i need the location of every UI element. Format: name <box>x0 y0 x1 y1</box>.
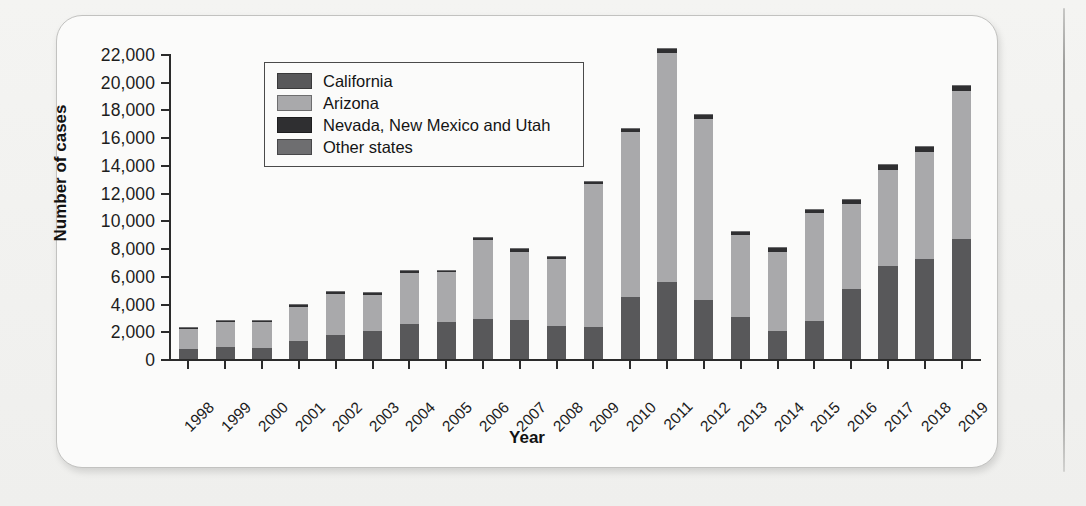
bar-segment[interactable] <box>657 53 676 282</box>
legend-item[interactable]: California <box>277 70 573 92</box>
bar-segment[interactable] <box>584 181 603 182</box>
bar-segment[interactable] <box>694 114 713 115</box>
bar-segment[interactable] <box>878 164 897 165</box>
bar-segment[interactable] <box>252 321 271 322</box>
bar-segment[interactable] <box>621 132 640 297</box>
bar-segment[interactable] <box>510 252 529 321</box>
bar-segment[interactable] <box>878 266 897 359</box>
bar-segment[interactable] <box>657 48 676 49</box>
bar-segment[interactable] <box>878 170 897 266</box>
bar-segment[interactable] <box>289 341 308 359</box>
bar-segment[interactable] <box>621 128 640 129</box>
bar-segment[interactable] <box>842 289 861 359</box>
bar-segment[interactable] <box>216 320 235 321</box>
bar-segment[interactable] <box>547 326 566 359</box>
bar-segment[interactable] <box>179 327 198 328</box>
bar-segment[interactable] <box>805 213 824 320</box>
bar-stack[interactable] <box>768 247 787 359</box>
bar-segment[interactable] <box>768 247 787 248</box>
bar-segment[interactable] <box>621 129 640 132</box>
bar-stack[interactable] <box>657 48 676 359</box>
bar-segment[interactable] <box>363 331 382 359</box>
bar-segment[interactable] <box>694 119 713 300</box>
bar-segment[interactable] <box>547 256 566 259</box>
bar-segment[interactable] <box>326 291 345 292</box>
bar-segment[interactable] <box>289 304 308 305</box>
bar-segment[interactable] <box>842 199 861 200</box>
bar-stack[interactable] <box>805 209 824 359</box>
bar-segment[interactable] <box>952 239 971 359</box>
bar-stack[interactable] <box>731 231 750 359</box>
bar-segment[interactable] <box>768 248 787 251</box>
bar-segment[interactable] <box>289 305 308 307</box>
bar-segment[interactable] <box>400 270 419 271</box>
bar-segment[interactable] <box>437 270 456 272</box>
bar-segment[interactable] <box>437 322 456 359</box>
bar-segment[interactable] <box>621 297 640 359</box>
bar-segment[interactable] <box>842 200 861 204</box>
bar-stack[interactable] <box>437 270 456 359</box>
bar-segment[interactable] <box>510 248 529 249</box>
bar-stack[interactable] <box>547 256 566 359</box>
bar-segment[interactable] <box>584 182 603 184</box>
bar-segment[interactable] <box>326 292 345 294</box>
bar-stack[interactable] <box>179 327 198 359</box>
bar-stack[interactable] <box>400 270 419 359</box>
bar-segment[interactable] <box>915 147 934 152</box>
bar-segment[interactable] <box>473 238 492 241</box>
bar-stack[interactable] <box>878 164 897 359</box>
bar-segment[interactable] <box>584 327 603 359</box>
bar-segment[interactable] <box>731 231 750 234</box>
bar-segment[interactable] <box>326 294 345 336</box>
bar-stack[interactable] <box>473 237 492 359</box>
bar-stack[interactable] <box>289 304 308 359</box>
bar-segment[interactable] <box>731 231 750 232</box>
bar-segment[interactable] <box>731 235 750 317</box>
bar-segment[interactable] <box>437 272 456 321</box>
bar-segment[interactable] <box>805 209 824 213</box>
bar-segment[interactable] <box>363 292 382 293</box>
bar-segment[interactable] <box>915 152 934 259</box>
bar-segment[interactable] <box>437 270 456 271</box>
bar-stack[interactable] <box>363 292 382 359</box>
bar-stack[interactable] <box>621 128 640 359</box>
bar-segment[interactable] <box>657 282 676 359</box>
legend-item[interactable]: Other states <box>277 136 573 158</box>
bar-segment[interactable] <box>952 91 971 239</box>
bar-segment[interactable] <box>584 184 603 327</box>
bar-segment[interactable] <box>805 321 824 359</box>
bar-segment[interactable] <box>400 273 419 324</box>
bar-segment[interactable] <box>915 259 934 359</box>
bar-segment[interactable] <box>547 256 566 257</box>
bar-segment[interactable] <box>694 115 713 119</box>
bar-stack[interactable] <box>694 114 713 359</box>
bar-segment[interactable] <box>363 293 382 295</box>
bar-segment[interactable] <box>657 48 676 52</box>
bar-segment[interactable] <box>400 324 419 359</box>
bar-segment[interactable] <box>363 295 382 330</box>
bar-segment[interactable] <box>694 300 713 359</box>
bar-segment[interactable] <box>768 252 787 331</box>
bar-segment[interactable] <box>473 240 492 318</box>
bar-segment[interactable] <box>915 146 934 147</box>
bar-segment[interactable] <box>252 348 271 359</box>
bar-segment[interactable] <box>216 322 235 346</box>
bar-stack[interactable] <box>216 320 235 359</box>
bar-segment[interactable] <box>179 328 198 329</box>
bar-segment[interactable] <box>805 209 824 210</box>
bar-segment[interactable] <box>289 307 308 341</box>
legend-item[interactable]: Nevada, New Mexico and Utah <box>277 114 573 136</box>
bar-segment[interactable] <box>216 321 235 322</box>
bar-segment[interactable] <box>547 259 566 326</box>
bar-stack[interactable] <box>915 146 934 359</box>
bar-segment[interactable] <box>252 322 271 348</box>
bar-stack[interactable] <box>326 291 345 359</box>
bar-segment[interactable] <box>473 237 492 238</box>
bar-stack[interactable] <box>952 85 971 360</box>
bar-segment[interactable] <box>878 165 897 170</box>
bar-segment[interactable] <box>510 249 529 252</box>
bar-segment[interactable] <box>952 85 971 86</box>
bar-stack[interactable] <box>252 320 271 359</box>
bar-stack[interactable] <box>842 199 861 359</box>
bar-segment[interactable] <box>179 329 198 349</box>
